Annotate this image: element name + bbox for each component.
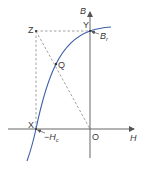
point-x-marker (35, 128, 37, 130)
h-axis-label: H (130, 133, 137, 143)
point-z-label: Z (28, 25, 34, 35)
br-label: Br (100, 31, 109, 42)
point-z-marker (35, 30, 37, 32)
b-axis-label: B (80, 6, 86, 16)
hc-label: −Hc (44, 132, 59, 143)
hc-label-sub: c (56, 137, 59, 143)
dashed-line-z-to-o (36, 31, 90, 129)
point-q-label: Q (58, 60, 65, 70)
origin-label: O (92, 132, 99, 142)
point-x-label: X (28, 120, 34, 130)
point-y-marker (89, 30, 91, 32)
point-y-label: Y (83, 20, 89, 30)
point-q-marker (55, 63, 57, 65)
bh-curve-diagram: B H O Z Y Q X Br −Hc (0, 0, 146, 170)
br-label-sub: r (106, 36, 109, 42)
hc-label-main: −H (44, 132, 56, 142)
br-leader-arrow (92, 32, 100, 35)
